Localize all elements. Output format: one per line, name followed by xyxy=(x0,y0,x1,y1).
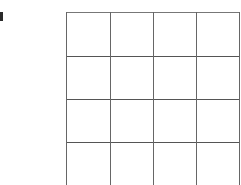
grid-line-col-3 xyxy=(196,12,197,185)
grid-line-left xyxy=(66,12,67,185)
empty-grid xyxy=(66,12,239,185)
left-marker xyxy=(0,12,3,21)
grid-line-col-1 xyxy=(110,12,111,185)
grid-line-right xyxy=(239,12,240,185)
grid-line-col-2 xyxy=(153,12,154,185)
